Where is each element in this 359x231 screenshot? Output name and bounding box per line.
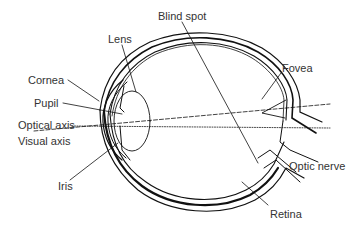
sclera-outer — [100, 33, 322, 122]
iris-lower — [120, 126, 130, 160]
eye-diagram: Blind spot Lens Cornea Pupil Fovea Optic… — [0, 0, 359, 231]
label-lens: Lens — [108, 33, 132, 45]
label-visual-axis: Visual axis — [18, 135, 70, 147]
label-optical-axis: Optical axis — [18, 119, 75, 131]
label-optic-nerve: Optic nerve — [289, 160, 345, 172]
optical-axis — [72, 126, 330, 128]
leader-cornea — [68, 80, 99, 101]
label-cornea: Cornea — [28, 74, 64, 86]
label-retina: Retina — [270, 208, 302, 220]
iris-upper — [120, 86, 124, 112]
label-iris: Iris — [58, 180, 73, 192]
sclera-outer-2 — [104, 38, 316, 133]
sclera-lower-outer — [100, 110, 304, 211]
leader-fovea — [262, 73, 281, 99]
label-blind-spot: Blind spot — [158, 10, 206, 22]
eye-cross-section — [0, 0, 359, 231]
label-fovea: Fovea — [282, 62, 313, 74]
leader-iris — [70, 143, 118, 180]
label-pupil: Pupil — [34, 97, 58, 109]
leader-blind-spot — [182, 22, 258, 163]
optic-nerve-upper — [280, 121, 318, 162]
